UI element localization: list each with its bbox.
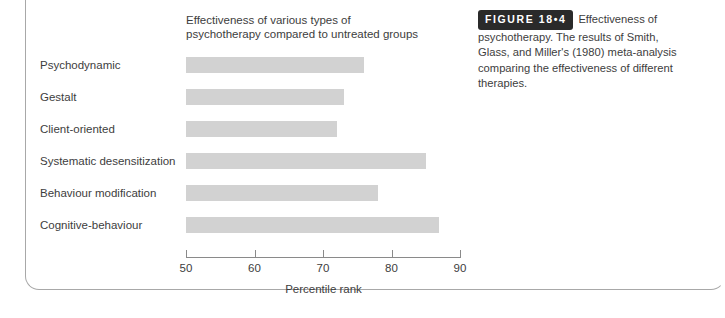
x-tick-70 <box>323 250 324 258</box>
category-label-6: Cognitive-behaviour <box>40 219 142 231</box>
x-tick-60 <box>255 250 256 258</box>
category-label-1: Psychodynamic <box>40 59 121 71</box>
x-tick-80 <box>392 250 393 258</box>
bar-fill <box>186 217 439 233</box>
x-tick-label-90: 90 <box>454 262 467 274</box>
bar-2 <box>186 89 344 105</box>
plot-area <box>186 55 460 251</box>
x-tick-label-80: 80 <box>385 262 398 274</box>
category-label-5: Behaviour modification <box>40 187 156 199</box>
chart-panel: Effectiveness of various types of psycho… <box>0 0 480 318</box>
x-tick-label-60: 60 <box>248 262 261 274</box>
bar-fill <box>186 57 364 73</box>
x-tick-50 <box>186 250 187 258</box>
category-label-4: Systematic desensitization <box>40 155 176 167</box>
bar-fill <box>186 153 426 169</box>
x-tick-label-50: 50 <box>180 262 193 274</box>
bar-fill <box>186 89 344 105</box>
bar-4 <box>186 153 426 169</box>
x-tick-label-70: 70 <box>317 262 330 274</box>
bar-1 <box>186 57 364 73</box>
chart-title: Effectiveness of various types of psycho… <box>186 13 466 41</box>
bar-5 <box>186 185 378 201</box>
bar-fill <box>186 121 337 137</box>
figure-caption: FIGURE 18•4Effectiveness of psychotherap… <box>478 10 688 91</box>
category-label-3: Client-oriented <box>40 123 115 135</box>
bar-6 <box>186 217 439 233</box>
x-tick-90 <box>460 250 461 258</box>
bar-3 <box>186 121 337 137</box>
figure-number-badge: FIGURE 18•4 <box>478 10 573 30</box>
figure-caption-panel: FIGURE 18•4Effectiveness of psychotherap… <box>478 10 688 91</box>
x-axis-title: Percentile rank <box>186 283 461 295</box>
bar-fill <box>186 185 378 201</box>
category-label-2: Gestalt <box>40 91 76 103</box>
